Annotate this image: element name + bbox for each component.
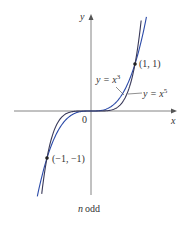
- point-neg1-neg1: [45, 156, 49, 160]
- point-neg1-neg1-label: (−1, −1): [52, 153, 85, 165]
- label-x-fifth-pointer: [128, 93, 142, 94]
- x-axis-arrow-icon: [171, 109, 177, 114]
- label-x-cubed-pointer: [116, 87, 124, 95]
- curve-x-cubed: [37, 17, 146, 196]
- point-1-1: [133, 62, 137, 66]
- y-axis-arrow-icon: [89, 14, 94, 20]
- label-x-cubed: y = x3: [95, 73, 121, 85]
- y-axis-label: y: [79, 11, 85, 22]
- curve-x-fifth: [42, 21, 141, 194]
- label-x-fifth: y = x5: [142, 87, 168, 99]
- origin-label: 0: [82, 114, 87, 125]
- caption: nodd: [78, 203, 100, 214]
- point-1-1-label: (1, 1): [139, 58, 161, 70]
- power-function-graph: x y 0 (1, 1) (−1, −1) y = x3 y = x5 nodd: [0, 0, 187, 225]
- x-axis-label: x: [170, 115, 176, 126]
